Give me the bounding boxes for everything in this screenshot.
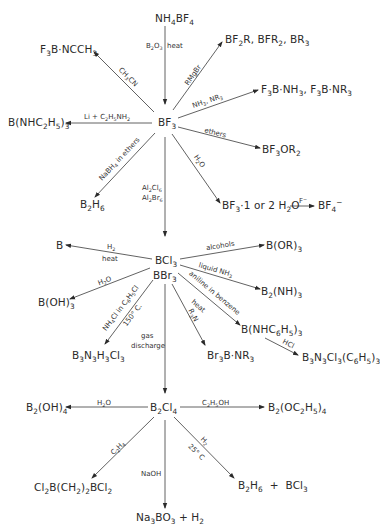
compound-b2-oc2h5-4: B2(OC2H5)4: [268, 402, 327, 413]
compound-bf3: BF3: [158, 117, 176, 128]
compound-br3b-nr3: Br3B·NR3: [207, 350, 254, 361]
compound-bf3or2: BF3OR2: [262, 144, 301, 155]
arrow-bcl3-to-b-nhc6h5: [178, 273, 240, 325]
compound-b2-nh-3: B2(NH)3: [261, 286, 302, 297]
compound-f3b-nh3-f3b-nr3: F3B·NH3, F3B·NR3: [261, 84, 352, 95]
label-li-c2h5nh2: Li + C2H5NH2: [84, 114, 130, 121]
compound-b-nhc6h5-3: B(NHC6H5)3: [241, 324, 302, 335]
compound-b-oh-3: B(OH)3: [38, 297, 75, 308]
compound-nh4bf4: NH4BF4: [155, 13, 194, 24]
compound-b-or-3: B(OR)3: [266, 240, 302, 251]
label-gas: gas: [141, 333, 153, 340]
label-naoh: NaOH: [141, 471, 161, 478]
products-na3bo3-h2: Na3BO3 + H2: [136, 512, 204, 523]
compound-cl2b-ch2-2-bcl2: Cl2B(CH2)2BCl2: [34, 482, 112, 493]
compound-b3n3h3cl3: B3N3H3Cl3: [72, 350, 125, 361]
label-discharge: discharge: [131, 343, 165, 350]
element-boron: B: [56, 240, 63, 251]
compound-bf2r-bfr2-br3: BF2R, BFR2, BR3: [225, 34, 310, 45]
label-h2o-b2cl4: H2O: [97, 400, 111, 407]
arrow-bcl3-to-b-oh3: [70, 268, 150, 299]
compound-bcl3: BCl3: [155, 255, 177, 266]
label-heat: heat: [102, 256, 118, 263]
compound-b2-oh-4: B2(OH)4: [26, 402, 68, 413]
products-b2h6-bcl3: B2H6 + BCl3: [238, 480, 308, 491]
compound-b-nhc2h5-3: B(NHC2H5)3: [8, 117, 69, 128]
compound-bf4-anion: BF4−: [318, 200, 343, 211]
compound-b2h6: B2H6: [80, 199, 105, 210]
compound-bf3-hydrate: BF3·1 or 2 H2O: [222, 200, 300, 211]
arrow-bf3-to-f3b-ncch3: [94, 52, 154, 112]
label-b2o3-heat: B2O3 heat: [146, 43, 183, 50]
label-c2h5oh: C2H5OH: [202, 400, 229, 407]
compound-b3n3cl3-c6h5-3: B3N3Cl3(C6H5)3: [302, 352, 380, 363]
label-al2cl6: Al2Cl6: [142, 185, 162, 192]
label-al2br6: Al2Br6: [142, 195, 163, 202]
label-f-minus: F−: [299, 198, 307, 205]
arrow-bf3-to-bf3-h2o: [172, 134, 220, 203]
label-h2: H2: [107, 244, 115, 251]
compound-f3b-ncch3: F3B·NCCH3: [40, 44, 97, 55]
compound-b2cl4: B2Cl4: [150, 402, 177, 413]
compound-bbr3: BBr3: [153, 270, 177, 281]
